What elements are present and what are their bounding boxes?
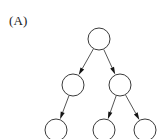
graph-edge [63,96,69,112]
graph-node-mid-l [62,74,84,96]
arrowhead-icon [79,67,85,75]
graph-edge [110,96,116,112]
graph-edge [104,49,112,67]
graph-node-leaf-m [93,119,115,139]
tree-diagram [0,0,168,139]
arrowhead-icon [60,111,65,119]
graph-edge [82,49,93,68]
arrowhead-icon [134,112,139,120]
graph-node-mid-r [109,74,131,96]
graph-edge [126,95,136,113]
graph-node-root [88,28,110,50]
figure-panel: (A) [0,0,168,139]
arrowhead-icon [110,67,115,75]
graph-node-leaf-l [45,119,67,139]
node-layer [45,28,156,139]
graph-node-leaf-r [134,119,156,139]
arrowhead-icon [108,111,112,119]
